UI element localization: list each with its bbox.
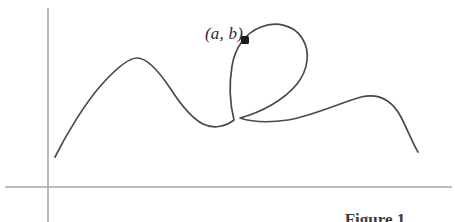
- self-intersecting-curve-path: [55, 24, 418, 157]
- curve-group: [55, 24, 418, 157]
- figure-caption: Figure 1: [305, 210, 445, 222]
- figure-container: (a, b) Figure 1: [0, 0, 455, 222]
- point-label-a-b: (a, b): [185, 24, 243, 44]
